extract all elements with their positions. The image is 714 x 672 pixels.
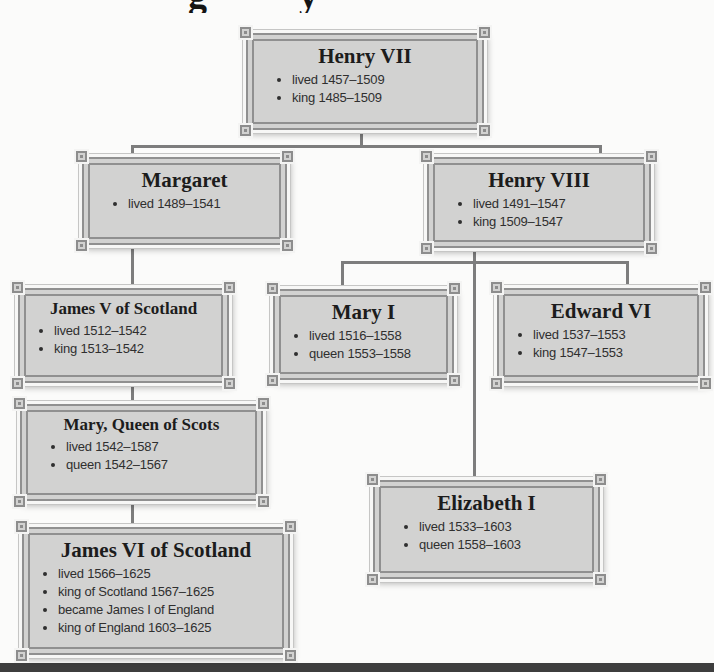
corner-ornament-icon bbox=[12, 282, 23, 293]
corner-ornament-icon bbox=[12, 378, 23, 389]
fact-item: king of Scotland 1567–1625 bbox=[58, 583, 278, 601]
corner-ornament-icon bbox=[700, 378, 711, 389]
person-node-henry-vii: Henry VII lived 1457–1509 king 1485–1509 bbox=[246, 33, 484, 130]
corner-ornament-icon bbox=[491, 282, 502, 293]
corner-ornament-icon bbox=[76, 240, 87, 251]
fact-list: lived 1516–1558 queen 1553–1558 bbox=[275, 327, 442, 363]
corner-ornament-icon bbox=[700, 282, 711, 293]
corner-ornament-icon bbox=[449, 283, 460, 294]
person-node-edward-vi: Edward VI lived 1537–1553 king 1547–1553 bbox=[497, 288, 705, 383]
fact-list: lived 1537–1553 king 1547–1553 bbox=[499, 326, 693, 362]
fact-list: lived 1512–1542 king 1513–1542 bbox=[20, 322, 217, 358]
fact-list: lived 1489–1541 bbox=[84, 195, 275, 213]
fact-item: lived 1516–1558 bbox=[309, 327, 442, 345]
fact-item: queen 1542–1567 bbox=[66, 456, 251, 474]
connector-line bbox=[131, 145, 602, 148]
person-name: Mary I bbox=[283, 301, 444, 324]
person-name: Henry VIII bbox=[437, 169, 641, 192]
corner-ornament-icon bbox=[421, 151, 432, 162]
fact-item: lived 1537–1553 bbox=[533, 326, 693, 344]
fact-list: lived 1491–1547 king 1509–1547 bbox=[429, 195, 639, 231]
corner-ornament-icon bbox=[491, 378, 502, 389]
fact-item: lived 1512–1542 bbox=[54, 322, 217, 340]
fact-item: queen 1553–1558 bbox=[309, 345, 442, 363]
corner-ornament-icon bbox=[646, 243, 657, 254]
person-name: James VI of Scotland bbox=[32, 539, 280, 562]
corner-ornament-icon bbox=[285, 650, 296, 661]
fact-list: lived 1533–1603 queen 1558–1603 bbox=[375, 518, 588, 554]
title-descender-g: g bbox=[188, 0, 207, 13]
fact-item: king 1509–1547 bbox=[473, 213, 639, 231]
fact-item: king of England 1603–1625 bbox=[58, 619, 278, 637]
page-title-fragment: g y bbox=[0, 0, 714, 13]
corner-ornament-icon bbox=[367, 474, 378, 485]
person-node-elizabeth-i: Elizabeth I lived 1533–1603 queen 1558–1… bbox=[373, 480, 600, 579]
connector-line bbox=[626, 261, 629, 291]
connector-line bbox=[131, 498, 134, 530]
fact-item: lived 1489–1541 bbox=[128, 195, 275, 213]
person-name: Edward VI bbox=[507, 300, 695, 323]
corner-ornament-icon bbox=[267, 283, 278, 294]
corner-ornament-icon bbox=[16, 650, 27, 661]
family-tree-page: { "title_fragment": { "left_glyph": "g",… bbox=[0, 0, 714, 672]
fact-item: lived 1491–1547 bbox=[473, 195, 639, 213]
corner-ornament-icon bbox=[282, 240, 293, 251]
title-descender-y: y bbox=[299, 0, 318, 13]
person-node-henry-viii: Henry VIII lived 1491–1547 king 1509–154… bbox=[427, 157, 651, 248]
connector-line bbox=[131, 243, 134, 291]
corner-ornament-icon bbox=[367, 574, 378, 585]
fact-list: lived 1566–1625 king of Scotland 1567–16… bbox=[24, 565, 278, 637]
person-name: Elizabeth I bbox=[383, 492, 590, 515]
person-node-james-vi: James VI of Scotland lived 1566–1625 kin… bbox=[22, 527, 290, 655]
corner-ornament-icon bbox=[282, 151, 293, 162]
fact-item: king 1513–1542 bbox=[54, 340, 217, 358]
fact-list: lived 1457–1509 king 1485–1509 bbox=[248, 71, 472, 107]
corner-ornament-icon bbox=[595, 574, 606, 585]
corner-ornament-icon bbox=[224, 378, 235, 389]
corner-ornament-icon bbox=[240, 125, 251, 136]
fact-item: king 1485–1509 bbox=[292, 89, 472, 107]
fact-item: lived 1533–1603 bbox=[419, 518, 588, 536]
corner-ornament-icon bbox=[595, 474, 606, 485]
fact-item: lived 1457–1509 bbox=[292, 71, 472, 89]
person-name: Margaret bbox=[92, 169, 277, 192]
fact-item: king 1547–1553 bbox=[533, 344, 693, 362]
corner-ornament-icon bbox=[240, 27, 251, 38]
corner-ornament-icon bbox=[224, 282, 235, 293]
corner-ornament-icon bbox=[258, 496, 269, 507]
corner-ornament-icon bbox=[421, 243, 432, 254]
person-node-mary-i: Mary I lived 1516–1558 queen 1553–1558 bbox=[273, 289, 454, 380]
corner-ornament-icon bbox=[14, 398, 25, 409]
fact-item: lived 1566–1625 bbox=[58, 565, 278, 583]
corner-ornament-icon bbox=[258, 398, 269, 409]
corner-ornament-icon bbox=[14, 496, 25, 507]
person-name: James V of Scotland bbox=[28, 300, 219, 319]
corner-ornament-icon bbox=[646, 151, 657, 162]
fact-list: lived 1542–1587 queen 1542–1567 bbox=[22, 438, 251, 474]
corner-ornament-icon bbox=[479, 27, 490, 38]
bottom-edge-bar bbox=[0, 663, 714, 672]
fact-item: lived 1542–1587 bbox=[66, 438, 251, 456]
person-name: Henry VII bbox=[256, 45, 474, 68]
fact-item: queen 1558–1603 bbox=[419, 536, 588, 554]
corner-ornament-icon bbox=[479, 125, 490, 136]
connector-line bbox=[341, 261, 629, 264]
person-node-mary-queen-of-scots: Mary, Queen of Scots lived 1542–1587 que… bbox=[20, 404, 263, 501]
person-node-margaret: Margaret lived 1489–1541 bbox=[82, 157, 287, 245]
corner-ornament-icon bbox=[267, 375, 278, 386]
corner-ornament-icon bbox=[16, 521, 27, 532]
connector-line bbox=[341, 261, 344, 291]
connector-line bbox=[473, 261, 476, 483]
corner-ornament-icon bbox=[76, 151, 87, 162]
fact-item: became James I of England bbox=[58, 601, 278, 619]
person-node-james-v: James V of Scotland lived 1512–1542 king… bbox=[18, 288, 229, 383]
corner-ornament-icon bbox=[285, 521, 296, 532]
person-name: Mary, Queen of Scots bbox=[30, 416, 253, 435]
corner-ornament-icon bbox=[449, 375, 460, 386]
